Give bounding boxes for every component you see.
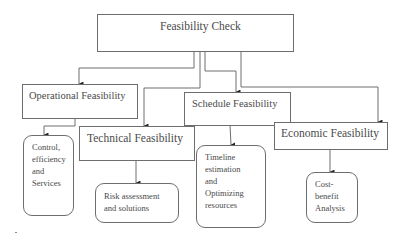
detail-technical-text: Risk assessment and solutions xyxy=(104,190,179,214)
detail-economic: Cost- benefit Analysis xyxy=(306,172,358,223)
node-economic-feasibility: Economic Feasibility xyxy=(274,122,388,150)
root-node-feasibility-check: Feasibility Check xyxy=(97,14,294,52)
detail-operational-text: Control, efficiency and Services xyxy=(32,141,74,189)
root-node-label: Feasibility Check xyxy=(160,20,241,32)
node-operational-label: Operational Feasibility xyxy=(29,90,126,101)
node-operational-feasibility: Operational Feasibility xyxy=(22,84,138,119)
detail-economic-text: Cost- benefit Analysis xyxy=(315,178,359,214)
node-technical-label: Technical Feasibility xyxy=(87,132,183,144)
node-schedule-feasibility: Schedule Feasibility xyxy=(184,92,291,126)
detail-operational: Control, efficiency and Services xyxy=(23,135,74,216)
node-schedule-label: Schedule Feasibility xyxy=(192,98,277,109)
node-technical-feasibility: Technical Feasibility xyxy=(79,126,195,161)
detail-technical: Risk assessment and solutions xyxy=(95,183,179,223)
detail-schedule-text: Timeline estimation and Optimizing resou… xyxy=(205,151,265,211)
node-economic-label: Economic Feasibility xyxy=(281,127,379,139)
detail-schedule: Timeline estimation and Optimizing resou… xyxy=(196,145,266,228)
